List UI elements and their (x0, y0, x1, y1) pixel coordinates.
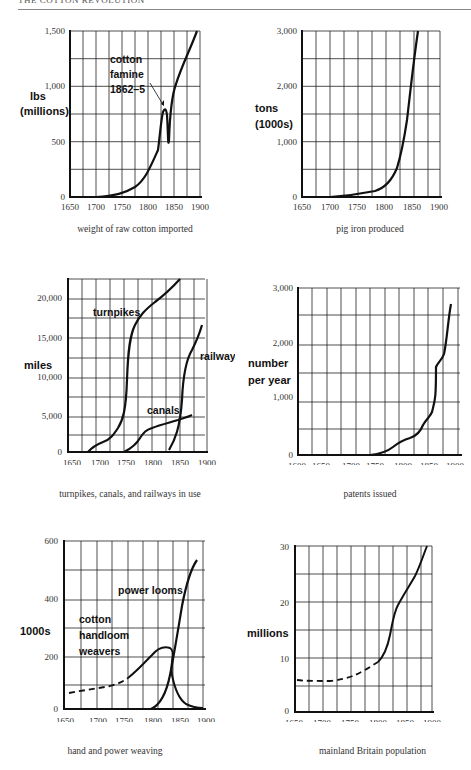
svg-text:1,000: 1,000 (277, 137, 298, 147)
svg-text:1750: 1750 (341, 718, 360, 722)
svg-text:1850: 1850 (396, 718, 415, 722)
svg-text:2,000: 2,000 (273, 338, 294, 348)
svg-text:0: 0 (58, 447, 63, 457)
header-rule (18, 9, 471, 10)
svg-text:1,500: 1,500 (45, 26, 66, 36)
svg-text:2,000: 2,000 (277, 81, 298, 91)
weaving-caption: hand and power weaving (40, 746, 190, 756)
railways-line (169, 325, 202, 450)
transport-chart: 20,000 15,000 10,000 5,000 0 1650 1700 1… (0, 270, 235, 465)
population-solid-line (378, 546, 427, 662)
svg-text:1650: 1650 (312, 461, 331, 465)
transport-ylabel: miles (24, 359, 52, 371)
svg-text:1850: 1850 (403, 202, 422, 210)
power-looms-label: power looms (118, 584, 183, 596)
handloom-label-1: cotton (79, 613, 111, 625)
svg-text:1850: 1850 (420, 461, 439, 465)
iron-ylabel-1: tons (255, 102, 278, 114)
svg-text:20,000: 20,000 (37, 293, 62, 303)
svg-text:5,000: 5,000 (42, 411, 63, 421)
svg-text:0: 0 (293, 192, 298, 202)
handloom-dashed-line (69, 678, 128, 693)
patents-chart: 3,000 2,000 1,000 0 1600 1650 1700 1750 … (235, 270, 471, 465)
svg-text:1900: 1900 (430, 202, 449, 210)
cotton-annotation-1: cotton (110, 53, 142, 65)
svg-text:1,000: 1,000 (45, 81, 66, 91)
svg-text:1850: 1850 (165, 202, 184, 210)
svg-text:1900: 1900 (191, 202, 210, 210)
transport-caption: turnpikes, canals, and railways in use (30, 489, 230, 499)
population-ylabel: millions (247, 627, 289, 639)
canals-line (124, 415, 192, 452)
running-header: THE COTTON REVOLUTION (18, 0, 145, 5)
svg-text:1600: 1600 (288, 461, 307, 465)
svg-text:1850: 1850 (171, 458, 190, 465)
weaving-chart: 600 400 200 0 1650 1700 1750 1800 1850 1… (0, 532, 235, 722)
svg-text:500: 500 (52, 137, 66, 147)
svg-text:0: 0 (61, 192, 66, 202)
svg-text:1750: 1750 (348, 202, 367, 210)
handloom-label-2: handloom (79, 629, 129, 641)
weaving-ylabel: 1000s (20, 625, 51, 637)
svg-text:1800: 1800 (369, 718, 388, 722)
cotton-caption: weight of raw cotton imported (40, 224, 230, 234)
svg-text:1700: 1700 (342, 461, 361, 465)
svg-text:1850: 1850 (171, 716, 190, 722)
svg-text:200: 200 (45, 652, 59, 662)
svg-text:1700: 1700 (313, 718, 332, 722)
svg-text:1700: 1700 (87, 202, 106, 210)
svg-text:1650: 1650 (285, 718, 304, 722)
svg-text:1700: 1700 (321, 202, 340, 210)
svg-text:1900: 1900 (423, 718, 442, 722)
svg-text:0: 0 (289, 450, 294, 460)
svg-text:1650: 1650 (56, 716, 75, 722)
svg-text:600: 600 (45, 536, 59, 546)
svg-text:1700: 1700 (91, 458, 110, 465)
svg-text:1750: 1750 (115, 716, 134, 722)
iron-caption: pig iron produced (290, 224, 450, 234)
patents-line (370, 304, 451, 455)
handloom-label-3: weavers (78, 645, 121, 657)
svg-text:1,000: 1,000 (273, 392, 294, 402)
svg-text:0: 0 (285, 706, 290, 716)
canals-label: canals (147, 404, 180, 416)
svg-text:10: 10 (280, 654, 290, 664)
cotton-annotation-3: 1862–5 (110, 83, 145, 95)
handloom-solid-line (128, 647, 203, 708)
patents-ylabel-1: number (248, 357, 289, 369)
svg-text:1800: 1800 (139, 202, 158, 210)
svg-text:1650: 1650 (293, 202, 312, 210)
railways-label: railways (200, 350, 235, 362)
svg-text:0: 0 (54, 704, 59, 714)
svg-text:1700: 1700 (89, 716, 108, 722)
svg-text:3,000: 3,000 (277, 26, 298, 36)
svg-text:1650: 1650 (63, 458, 82, 465)
iron-ylabel-2: (1000s) (255, 118, 293, 130)
svg-text:15,000: 15,000 (37, 333, 62, 343)
svg-text:1750: 1750 (113, 202, 132, 210)
cotton-ylabel-1: lbs (30, 90, 46, 102)
svg-text:1800: 1800 (144, 458, 163, 465)
svg-text:1900: 1900 (197, 716, 216, 722)
svg-text:400: 400 (45, 594, 59, 604)
population-caption: mainland Britain population (290, 746, 455, 756)
patents-caption: patents issued (300, 489, 440, 499)
svg-text:20: 20 (280, 598, 290, 608)
turnpikes-label: turnpikes (93, 306, 140, 318)
svg-text:1800: 1800 (394, 461, 413, 465)
cotton-annotation-2: famine (110, 68, 144, 80)
svg-text:1800: 1800 (144, 716, 163, 722)
svg-text:1900: 1900 (198, 458, 217, 465)
svg-text:3,000: 3,000 (273, 283, 294, 293)
patents-ylabel-2: per year (248, 374, 292, 386)
cotton-chart: 1,500 1,000 500 0 1650 1700 1750 1800 18… (0, 20, 235, 210)
svg-text:10,000: 10,000 (37, 372, 62, 382)
population-chart: 30 20 10 0 1650 1700 1750 1800 1850 1900… (235, 532, 471, 722)
svg-text:1900: 1900 (446, 461, 465, 465)
svg-text:30: 30 (280, 542, 290, 552)
iron-chart: 3,000 2,000 1,000 0 1650 1700 1750 1800 … (235, 20, 471, 210)
svg-text:1750: 1750 (117, 458, 136, 465)
svg-text:1750: 1750 (366, 461, 385, 465)
cotton-ylabel-2: (millions) (20, 105, 69, 117)
svg-text:1800: 1800 (375, 202, 394, 210)
